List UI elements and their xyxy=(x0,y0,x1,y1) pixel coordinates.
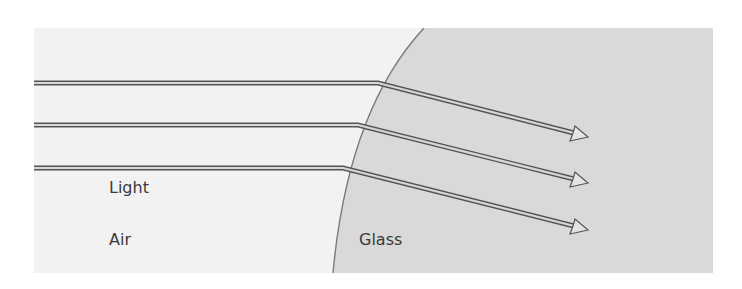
label-air: Air xyxy=(109,232,131,248)
label-glass: Glass xyxy=(359,232,402,248)
label-light: Light xyxy=(109,180,149,196)
